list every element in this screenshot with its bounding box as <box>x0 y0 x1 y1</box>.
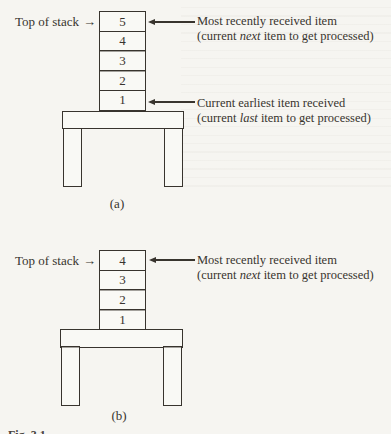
stack-b-cell-2: 2 <box>99 289 146 310</box>
stack-a-cell-3: 3 <box>99 50 146 71</box>
top-of-stack-label-b: Top of stack→ <box>6 253 96 268</box>
italic-last: last <box>240 111 258 125</box>
note-a-top-line1: Most recently received item <box>197 14 374 29</box>
top-of-stack-label-a: Top of stack→ <box>6 14 96 29</box>
figure-caption-cutoff: Fig. 3.1 <box>8 429 148 434</box>
figure-page: Top of stack→ 5 4 3 2 1 Most recently re… <box>0 0 391 434</box>
stack-a-cell-1: 1 <box>99 90 146 111</box>
left-arrow-icon-b <box>149 257 195 264</box>
stack-a-cell-5: 5 <box>99 11 146 32</box>
note-a-top: Most recently received item (current nex… <box>197 14 374 44</box>
right-arrow-icon-a: → <box>83 14 96 29</box>
table-left-leg-b <box>61 346 80 406</box>
italic-next: next <box>240 268 261 282</box>
note-a-bottom-line2: (current last item to get processed) <box>197 111 371 126</box>
note-a-top-line2: (current next item to get processed) <box>197 29 374 44</box>
stack-a-cell-4: 4 <box>99 31 146 52</box>
note-b-top-line2: (current next item to get processed) <box>197 268 374 283</box>
note-a-bottom-line1: Current earliest item received <box>197 96 371 111</box>
italic-next: next <box>240 29 261 43</box>
stack-a-cell-2: 2 <box>99 70 146 91</box>
stack-b-cell-4: 4 <box>99 250 146 271</box>
stack-b-cell-3: 3 <box>99 270 146 291</box>
table-left-leg-a <box>63 128 82 187</box>
table-top-b <box>60 329 183 348</box>
arrow-shaft <box>153 21 195 23</box>
panel-label-b: (b) <box>97 408 141 424</box>
arrow-shaft <box>154 259 195 261</box>
table-right-leg-b <box>163 346 182 406</box>
arrow-shaft <box>153 101 195 103</box>
stack-b-cell-1: 1 <box>99 309 146 330</box>
stack-a: 5 4 3 2 1 <box>99 11 146 111</box>
note-b-top: Most recently received item (current nex… <box>197 253 374 283</box>
top-of-stack-text-a: Top of stack <box>15 14 79 29</box>
left-arrow-icon-a-top <box>148 19 195 26</box>
note-b-top-line1: Most recently received item <box>197 253 374 268</box>
stack-b: 4 3 2 1 <box>99 250 146 330</box>
left-arrow-icon-a-bottom <box>148 99 195 106</box>
table-right-leg-a <box>164 128 183 187</box>
top-of-stack-text-b: Top of stack <box>15 253 79 268</box>
table-top-a <box>62 111 184 129</box>
right-arrow-icon-b: → <box>83 253 96 268</box>
note-a-bottom: Current earliest item received (current … <box>197 96 371 126</box>
panel-label-a: (a) <box>95 196 139 212</box>
